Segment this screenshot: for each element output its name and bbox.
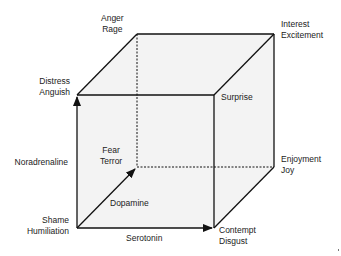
- label-enjoyment-joy: Enjoyment Joy: [281, 154, 321, 176]
- label-line: Fear: [100, 145, 122, 156]
- label-line: Joy: [281, 165, 321, 176]
- label-fear-terror: Fear Terror: [100, 145, 122, 167]
- label-surprise: Surprise: [221, 92, 253, 103]
- label-distress-anguish: Distress Anguish: [30, 76, 70, 98]
- label-dopamine: Dopamine: [110, 198, 149, 209]
- label-line: Enjoyment: [281, 154, 321, 165]
- label-line: Terror: [100, 156, 122, 167]
- label-line: Interest: [281, 19, 323, 30]
- axis-label: Noradrenaline: [8, 157, 68, 168]
- label-line: Shame: [18, 215, 69, 226]
- label-anger-rage: Anger Rage: [101, 13, 124, 35]
- label-serotonin: Serotonin: [126, 233, 162, 244]
- label-line: Disgust: [219, 236, 256, 247]
- stray-dot: [338, 249, 339, 251]
- label-contempt-disgust: Contempt Disgust: [219, 225, 256, 247]
- label-line: Excitement: [281, 30, 323, 41]
- label-line: Distress: [30, 76, 70, 87]
- label-noradrenaline: Noradrenaline: [8, 157, 68, 168]
- label-line: Contempt: [219, 225, 256, 236]
- label-interest-excitement: Interest Excitement: [281, 19, 323, 41]
- label-line: Humiliation: [18, 226, 69, 237]
- label-line: Anger: [101, 13, 124, 24]
- axis-label: Serotonin: [126, 233, 162, 244]
- label-shame-humiliation: Shame Humiliation: [18, 215, 69, 237]
- label-line: Surprise: [221, 92, 253, 103]
- axis-label: Dopamine: [110, 198, 149, 209]
- label-line: Rage: [101, 24, 124, 35]
- label-line: Anguish: [30, 87, 70, 98]
